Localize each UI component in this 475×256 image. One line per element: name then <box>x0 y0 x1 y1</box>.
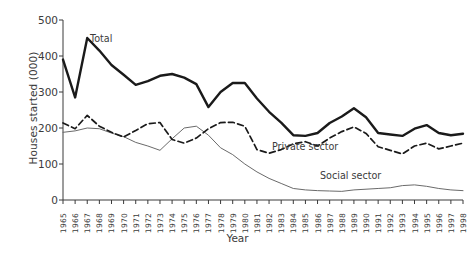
plot-area <box>63 20 463 200</box>
y-axis-tick-label: 200 <box>24 122 58 134</box>
series-line-total <box>63 38 463 136</box>
x-axis-tick-label: 1971 <box>132 213 141 233</box>
y-axis-tick-label: 400 <box>24 50 58 62</box>
series-label-private-sector: Private sector <box>272 141 338 152</box>
x-axis-tick-label: 1993 <box>398 213 407 233</box>
x-axis-tick-label: 1986 <box>314 213 323 233</box>
x-axis-tick-label: 1965 <box>59 213 68 233</box>
x-axis-tick-label: 1969 <box>107 213 116 233</box>
x-axis-tick-label: 1987 <box>326 213 335 233</box>
x-axis-tick-label: 1994 <box>411 213 420 233</box>
x-axis-tick-label: 1984 <box>289 213 298 233</box>
x-axis-tick-label: 1975 <box>180 213 189 233</box>
x-axis-tick-label: 1983 <box>277 213 286 233</box>
x-axis-tick-label: 1966 <box>71 213 80 233</box>
axis-spines <box>63 20 463 200</box>
x-axis-tick-label: 1978 <box>217 213 226 233</box>
x-axis-tick-label: 1967 <box>83 213 92 233</box>
x-axis-tick-label: 1976 <box>192 213 201 233</box>
x-axis-tick-label: 1989 <box>350 213 359 233</box>
x-axis-tick-label: 1980 <box>241 213 250 233</box>
x-axis-tick-label: 1985 <box>301 213 310 233</box>
x-axis-tick-label: 1998 <box>459 213 468 233</box>
x-axis-tick-labels: 1965196619671968196919701971197219731974… <box>63 203 463 233</box>
x-axis-tick-label: 1977 <box>204 213 213 233</box>
x-axis-tick-label: 1991 <box>374 213 383 233</box>
series-label-total: Total <box>90 33 112 44</box>
x-axis-tick-label: 1981 <box>253 213 262 233</box>
y-axis-tick-labels: 0100200300400500 <box>22 20 58 200</box>
x-axis-tick-label: 1996 <box>435 213 444 233</box>
chart-figure: Houses started (000) Year 01002003004005… <box>0 0 475 256</box>
x-axis-tick-label: 1992 <box>386 213 395 233</box>
x-axis-tick-label: 1988 <box>338 213 347 233</box>
y-axis-tick-label: 500 <box>24 14 58 26</box>
y-axis-tick-label: 100 <box>24 158 58 170</box>
x-axis-tick-label: 1974 <box>168 213 177 233</box>
x-axis-tick-label: 1972 <box>144 213 153 233</box>
x-axis-tick-label: 1970 <box>120 213 129 233</box>
y-axis-tick-label: 300 <box>24 86 58 98</box>
series-canvas <box>63 20 463 200</box>
x-axis-title: Year <box>0 232 475 244</box>
x-axis-tick-label: 1997 <box>447 213 456 233</box>
x-axis-tick-label: 1979 <box>229 213 238 233</box>
x-axis-tick-label: 1968 <box>95 213 104 233</box>
x-axis-tick-label: 1982 <box>265 213 274 233</box>
x-axis-tick-label: 1990 <box>362 213 371 233</box>
x-axis-tick-label: 1995 <box>423 213 432 233</box>
series-label-social-sector: Social sector <box>320 170 381 181</box>
x-axis-tick-label: 1973 <box>156 213 165 233</box>
y-axis-tick-label: 0 <box>24 194 58 206</box>
